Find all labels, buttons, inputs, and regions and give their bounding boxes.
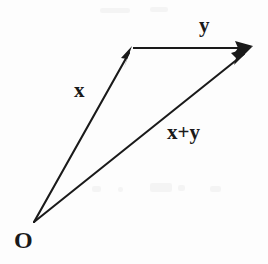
vector-addition-figure: x y x+y O <box>0 0 268 264</box>
origin-label: O <box>14 228 33 252</box>
vector-x-label: x <box>74 80 85 101</box>
vector-sum-label: x+y <box>167 122 200 143</box>
vector-diagram-canvas <box>0 0 268 264</box>
vector-x-plus-y <box>34 46 253 222</box>
vector-y-label: y <box>199 15 210 36</box>
vector-sum-shaft <box>34 54 244 222</box>
vector-x <box>34 46 132 222</box>
